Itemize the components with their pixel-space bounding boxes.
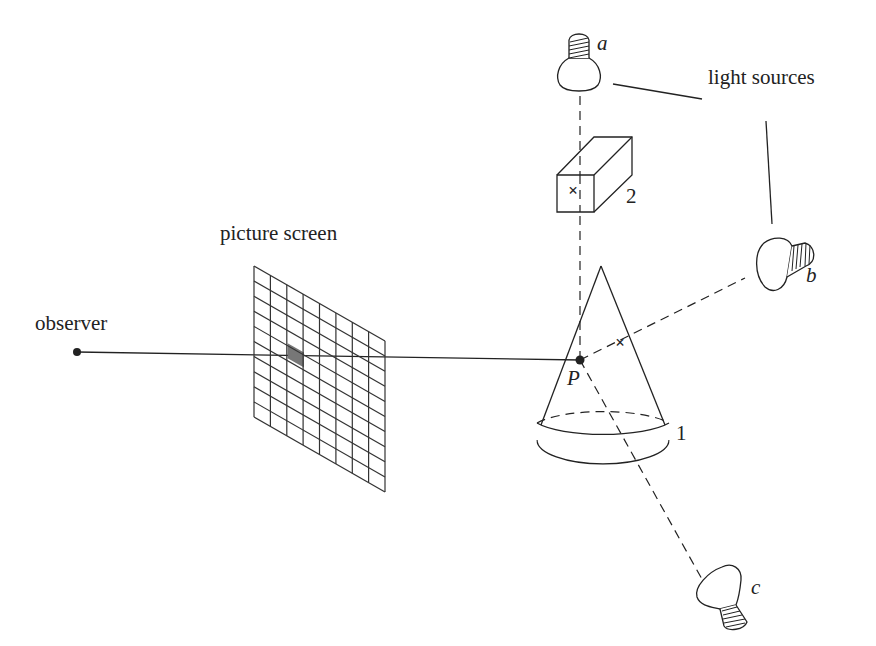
blocked-marker-b: × [615, 333, 625, 352]
shadow-ray-b [580, 278, 745, 360]
observer-label: observer [35, 311, 107, 335]
point-p [576, 356, 585, 365]
picture-screen-grid [254, 266, 385, 492]
point-p-label: P [566, 366, 580, 390]
light-a-label: a [597, 31, 608, 55]
light-a-bulb-icon [558, 34, 601, 91]
ray-tracing-diagram: observer picture screen [0, 0, 876, 646]
object-2-label: 2 [626, 184, 637, 208]
leader-to-light-b [766, 121, 772, 224]
light-b-label: b [806, 263, 817, 287]
shadow-ray-c [580, 360, 708, 590]
leader-to-light-a [613, 84, 702, 99]
picture-screen-label: picture screen [220, 221, 338, 245]
object-1-cone [537, 266, 669, 463]
view-ray [77, 352, 580, 360]
object-2-box: × [557, 137, 632, 212]
light-c-label: c [751, 575, 761, 599]
object-1-label: 1 [676, 421, 687, 445]
light-sources-label: light sources [708, 65, 815, 89]
light-c-bulb-icon [697, 565, 747, 629]
cone-base-front [537, 416, 669, 464]
blocked-marker-a: × [568, 181, 578, 200]
